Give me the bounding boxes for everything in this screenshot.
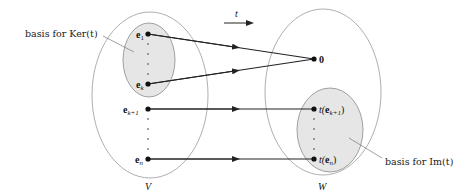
- map-label: t: [235, 8, 238, 19]
- vector-ek-plus-1: ek+1: [123, 104, 139, 117]
- vector-en: en: [135, 154, 143, 167]
- kernel-basis-callout: basis for Ker(t): [25, 28, 98, 39]
- zero-vector-label: 0: [319, 54, 324, 65]
- linear-map-diagram: t e1 ek ek+1 en 0 t(ek+1) t(en) V W: [0, 0, 475, 194]
- codomain-label-W: W: [318, 181, 328, 192]
- domain-label-V: V: [145, 181, 153, 192]
- image-basis-callout: basis for Im(t): [385, 156, 453, 167]
